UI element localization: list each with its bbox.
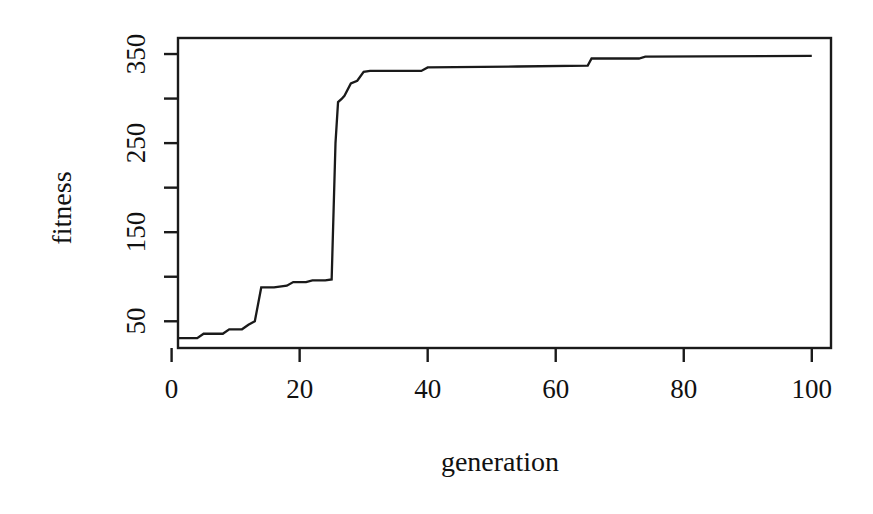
y-axis-title: fitness bbox=[48, 171, 76, 244]
x-axis-title: generation bbox=[441, 448, 559, 476]
plot-area bbox=[0, 0, 873, 514]
x-tick-label: 40 bbox=[414, 376, 441, 403]
x-tick-label: 100 bbox=[792, 376, 833, 403]
x-tick-label: 20 bbox=[286, 376, 313, 403]
x-tick-label: 0 bbox=[165, 376, 179, 403]
chart-figure: 020406080100 50150250350 generation fitn… bbox=[0, 0, 873, 514]
x-tick-label: 80 bbox=[670, 376, 697, 403]
y-tick-label: 150 bbox=[123, 212, 150, 253]
x-tick-label: 60 bbox=[542, 376, 569, 403]
y-tick-label: 250 bbox=[123, 123, 150, 164]
y-tick-label: 350 bbox=[123, 34, 150, 75]
y-tick-label: 50 bbox=[123, 308, 150, 335]
figure-background bbox=[0, 0, 873, 514]
